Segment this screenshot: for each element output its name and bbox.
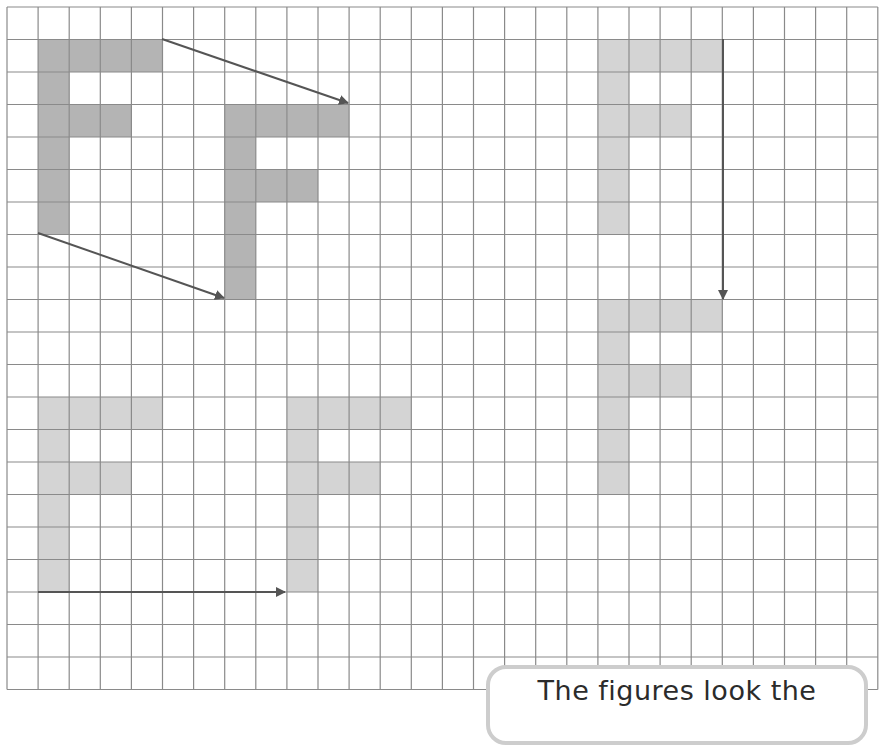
f-cell (380, 397, 411, 430)
f-cell (318, 105, 349, 138)
f-cell (38, 170, 69, 203)
f-cell (660, 40, 691, 73)
f-cell (100, 105, 131, 138)
f-cell (100, 397, 131, 430)
f-cell (287, 105, 318, 138)
f-cell (225, 105, 256, 138)
f-cell (225, 267, 256, 300)
f-cell (598, 170, 629, 203)
f-cell (256, 170, 287, 203)
f-cell (598, 72, 629, 105)
arrow-translate-1-top-icon (162, 39, 348, 103)
f-cell (598, 462, 629, 495)
f-cell (225, 202, 256, 235)
callout-box: The figures look the (486, 665, 868, 745)
f-cell (38, 560, 69, 593)
f-cell (256, 105, 287, 138)
f-cell (629, 105, 660, 138)
f-cell (131, 40, 162, 73)
f-cell (287, 170, 318, 203)
f-cell (287, 495, 318, 528)
f-cell (38, 430, 69, 463)
f-cell (598, 430, 629, 463)
f-cell (131, 397, 162, 430)
f-cell (69, 40, 100, 73)
f-cell (38, 527, 69, 560)
f-cell (598, 40, 629, 73)
f-cell (225, 170, 256, 203)
f-cell (287, 397, 318, 430)
f-cell (691, 40, 722, 73)
f-cell (287, 430, 318, 463)
f-cell (38, 462, 69, 495)
f-cell (598, 332, 629, 365)
f-cell (318, 462, 349, 495)
f-cell (318, 397, 349, 430)
f-cell (100, 462, 131, 495)
callout-text: The figures look the (490, 675, 864, 706)
f-cell (598, 397, 629, 430)
f-cell (349, 462, 380, 495)
f-cell (38, 72, 69, 105)
f-cell (38, 137, 69, 170)
f-cell (100, 40, 131, 73)
f-cell (598, 137, 629, 170)
f-cell (38, 40, 69, 73)
f-cell (629, 365, 660, 398)
f-cell (660, 300, 691, 333)
f-cell (598, 365, 629, 398)
f-cell (691, 300, 722, 333)
f-cell (38, 495, 69, 528)
f-cell (287, 462, 318, 495)
f-cell (38, 397, 69, 430)
grid-lines (7, 7, 878, 690)
f-cell (38, 202, 69, 235)
f-cell (38, 105, 69, 138)
f-cell (69, 105, 100, 138)
f-cell (349, 397, 380, 430)
f-cell (660, 105, 691, 138)
f-cell (225, 235, 256, 268)
f-cell (598, 105, 629, 138)
f-cell (69, 397, 100, 430)
f-cell (629, 300, 660, 333)
f-cell (287, 560, 318, 593)
f-cell (287, 527, 318, 560)
f-cell (598, 202, 629, 235)
f-cell (69, 462, 100, 495)
f-cell (225, 137, 256, 170)
f-cell (660, 365, 691, 398)
f-cell (598, 300, 629, 333)
f-cell (629, 40, 660, 73)
